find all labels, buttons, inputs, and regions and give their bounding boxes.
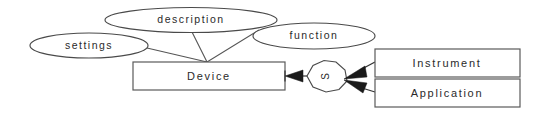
s-relationship-label: S: [320, 73, 331, 80]
attribute-connectors: [147, 30, 259, 62]
attribute-node-description[interactable]: description: [105, 8, 277, 33]
edge-description-to-device: [192, 32, 207, 62]
entity-node-application[interactable]: Application: [375, 79, 520, 107]
description-label: description: [157, 13, 224, 25]
device-label: Device: [187, 70, 231, 82]
application-to-s-arrowhead-icon: [344, 80, 367, 93]
application-label: Application: [411, 87, 484, 99]
entity-node-instrument[interactable]: Instrument: [375, 49, 520, 77]
edge-application-to-s: [344, 80, 375, 93]
entity-node-device[interactable]: Device: [133, 62, 285, 90]
settings-label: settings: [65, 39, 113, 51]
edge-settings-to-device: [147, 48, 207, 62]
edge-s-to-device: [285, 70, 307, 82]
attribute-node-settings[interactable]: settings: [30, 33, 148, 58]
relationship-node-s[interactable]: S: [307, 61, 347, 93]
instrument-to-s-arrowhead-icon: [344, 66, 367, 79]
function-label: function: [290, 29, 339, 41]
s-to-device-arrowhead-icon: [285, 70, 303, 82]
diagram-canvas: settings description function Device S: [0, 0, 540, 119]
edge-instrument-to-s: [344, 62, 375, 79]
edge-function-to-device: [207, 30, 259, 62]
instrument-label: Instrument: [413, 57, 482, 69]
attribute-node-function[interactable]: function: [253, 23, 375, 49]
er-diagram: settings description function Device S: [0, 0, 540, 119]
